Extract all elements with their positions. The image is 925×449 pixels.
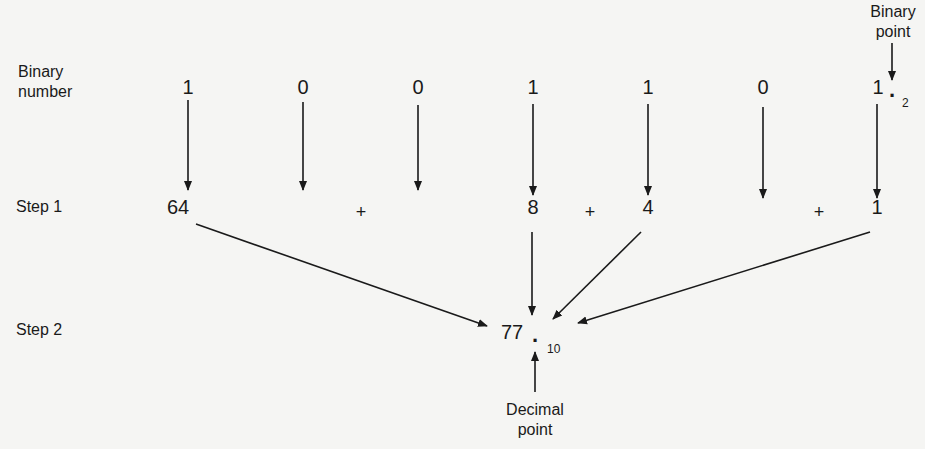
converge-arrow-icon — [553, 232, 641, 319]
arrows-layer — [0, 0, 925, 449]
converge-arrow-icon — [578, 232, 870, 323]
converge-arrow-icon — [196, 224, 487, 326]
